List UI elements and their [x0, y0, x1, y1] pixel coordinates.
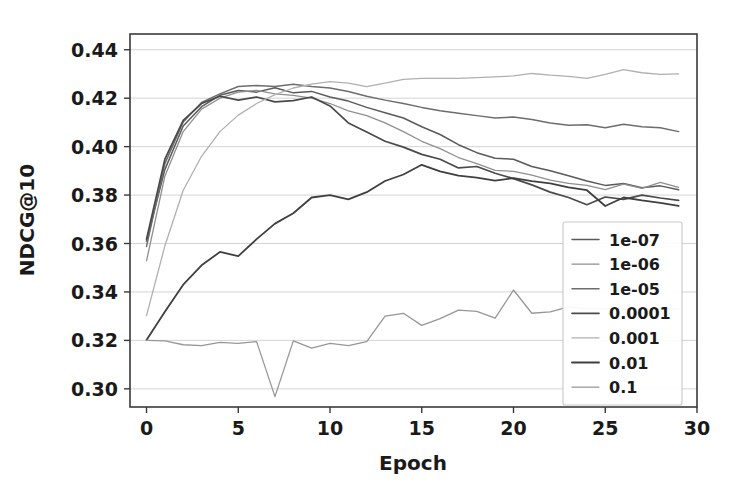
ndcg-vs-epoch-line-chart: 051015202530 0.300.320.340.360.380.400.4… [0, 0, 733, 491]
x-tick-label: 30 [684, 417, 710, 439]
x-axis-title: Epoch [379, 451, 447, 475]
legend-label-0.1[interactable]: 0.1 [609, 378, 637, 397]
legend-label-1e-05[interactable]: 1e-05 [609, 280, 660, 299]
chart-figure: 051015202530 0.300.320.340.360.380.400.4… [0, 0, 733, 491]
y-axis-title: NDCG@10 [15, 164, 39, 276]
legend-label-0.01[interactable]: 0.01 [609, 354, 648, 373]
y-tick-label: 0.42 [71, 87, 118, 109]
y-tick-label: 0.30 [71, 378, 118, 400]
legend-label-1e-06[interactable]: 1e-06 [609, 255, 660, 274]
x-tick-label: 25 [592, 417, 618, 439]
y-tick-label: 0.40 [71, 136, 118, 158]
x-tick-label: 5 [232, 417, 245, 439]
y-tick-label: 0.32 [71, 329, 118, 351]
x-tick-label: 0 [140, 417, 153, 439]
y-tick-label: 0.36 [71, 233, 118, 255]
chart-legend[interactable]: 1e-071e-061e-050.00010.0010.010.1 [563, 222, 682, 405]
x-tick-label: 10 [317, 417, 343, 439]
x-tick-label: 20 [500, 417, 526, 439]
y-tick-label: 0.34 [71, 281, 118, 303]
y-tick-label: 0.44 [71, 39, 118, 61]
y-tick-label: 0.38 [71, 184, 118, 206]
legend-label-1e-07[interactable]: 1e-07 [609, 231, 660, 250]
legend-label-0.0001[interactable]: 0.0001 [609, 304, 671, 323]
legend-label-0.001[interactable]: 0.001 [609, 329, 660, 348]
x-tick-label: 15 [409, 417, 435, 439]
